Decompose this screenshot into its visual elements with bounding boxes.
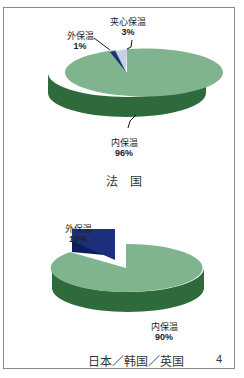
page-number: 4 <box>216 353 222 365</box>
pie-3d-jku <box>0 190 244 378</box>
pie-chart-japan-korea-uk: 外保温 10% 内保温 90% 日本／韩国／英国 4 <box>0 190 244 378</box>
chart-title-france: 法 国 <box>106 172 142 189</box>
chart-title-jku: 日本／韩国／英国 <box>88 352 184 369</box>
pie-chart-france: 外保温 1% 夹心保温 3% 内保温 96% 法 国 <box>0 0 244 190</box>
label-outer-france: 外保温 1% <box>67 31 94 51</box>
label-inner-jku: 内保温 90% <box>151 322 178 342</box>
label-outer-jku: 外保温 10% <box>65 224 92 244</box>
label-inner-france: 内保温 96% <box>111 138 138 158</box>
label-sandwich-france: 夹心保温 3% <box>110 17 146 37</box>
